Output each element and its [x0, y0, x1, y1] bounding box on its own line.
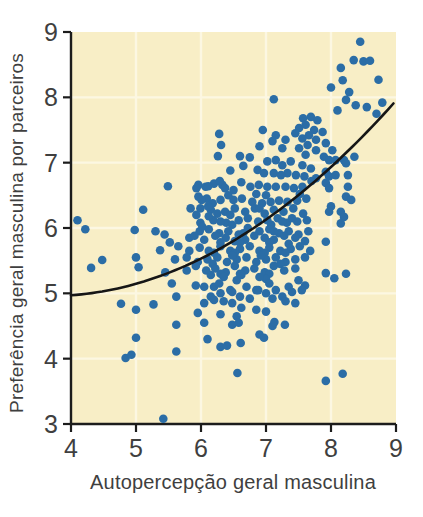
scatter-point — [151, 227, 160, 236]
y-tick-label: 9 — [44, 18, 58, 46]
scatter-point — [277, 171, 286, 180]
scatter-point — [134, 263, 143, 272]
x-axis-title: Autopercepção geral masculina — [90, 471, 376, 494]
scatter-point — [347, 196, 356, 205]
scatter-point — [281, 136, 290, 145]
scatter-point — [216, 289, 225, 298]
scatter-point — [351, 101, 360, 110]
scatter-point — [236, 152, 245, 161]
y-tick-label: 3 — [44, 410, 58, 438]
scatter-point — [278, 144, 287, 153]
scatter-point — [172, 292, 181, 301]
scatter-point — [204, 182, 213, 191]
scatter-point — [215, 279, 224, 288]
scatter-point — [132, 305, 141, 314]
scatter-point — [139, 205, 148, 214]
scatter-point — [304, 227, 313, 236]
x-tick-label: 4 — [64, 434, 78, 462]
scatter-point — [342, 269, 351, 278]
scatter-point — [186, 204, 195, 213]
scatter-point — [236, 292, 245, 301]
scatter-point — [207, 271, 216, 280]
scatter-point — [338, 76, 347, 85]
scatter-point — [300, 172, 309, 181]
scatter-point — [216, 196, 225, 205]
scatter-point — [246, 242, 255, 251]
scatter-point — [132, 253, 141, 262]
scatter-point — [216, 310, 225, 319]
scatter-point — [291, 234, 300, 243]
scatter-point — [345, 88, 354, 97]
scatter-point — [87, 264, 96, 273]
scatter-point — [270, 169, 279, 178]
scatter-point — [237, 303, 246, 312]
scatter-point — [149, 300, 158, 309]
scatter-figure: Preferência geral masculina por parceiro… — [0, 0, 423, 517]
scatter-point — [210, 296, 219, 305]
scatter-point — [338, 369, 347, 378]
scatter-point — [262, 307, 271, 316]
scatter-point — [166, 238, 175, 247]
scatter-point — [226, 166, 235, 175]
scatter-point — [303, 216, 312, 225]
scatter-point — [200, 283, 209, 292]
scatter-point — [224, 191, 233, 200]
scatter-point — [228, 251, 237, 260]
scatter-point — [257, 251, 266, 260]
y-tick-label: 6 — [44, 214, 58, 242]
scatter-point — [192, 184, 201, 193]
scatter-point — [303, 141, 312, 150]
scatter-point — [298, 161, 307, 170]
scatter-point — [307, 164, 316, 173]
scatter-point — [205, 212, 214, 221]
scatter-point — [216, 217, 225, 226]
scatter-point — [296, 242, 305, 251]
scatter-point — [286, 157, 295, 166]
scatter-point — [337, 64, 346, 73]
scatter-point — [366, 56, 375, 65]
scatter-point — [363, 103, 372, 112]
scatter-point — [228, 299, 237, 308]
scatter-point — [333, 106, 342, 115]
scatter-point — [255, 204, 264, 213]
scatter-point — [231, 262, 240, 271]
scatter-point — [242, 283, 251, 292]
scatter-point — [270, 227, 279, 236]
y-tick-label: 8 — [44, 83, 58, 111]
scatter-point — [156, 246, 165, 255]
scatter-point — [291, 299, 300, 308]
scatter-point — [236, 339, 245, 348]
y-tick-label: 5 — [44, 279, 58, 307]
scatter-point — [328, 146, 337, 155]
scatter-point — [322, 139, 331, 148]
scatter-point — [342, 159, 351, 168]
scatter-point — [244, 214, 253, 223]
scatter-point — [342, 96, 351, 105]
scatter-point — [344, 171, 353, 180]
scatter-point — [242, 253, 251, 262]
scatter-point — [260, 169, 269, 178]
x-tick-label: 6 — [194, 434, 208, 462]
scatter-point — [237, 178, 246, 187]
scatter-point — [214, 152, 223, 161]
scatter-point — [288, 214, 297, 223]
scatter-point — [281, 249, 290, 258]
y-tick-label: 4 — [44, 345, 58, 373]
x-tick-label: 7 — [259, 434, 273, 462]
scatter-point — [246, 183, 255, 192]
scatter-point — [349, 56, 358, 65]
scatter-point — [288, 288, 297, 297]
scatter-point — [132, 334, 141, 343]
scatter-point — [226, 211, 235, 220]
scatter-point — [313, 116, 322, 125]
scatter-point — [350, 153, 359, 162]
scatter-point — [228, 288, 237, 297]
scatter-point — [217, 141, 226, 150]
scatter-point — [270, 318, 279, 327]
scatter-point — [337, 219, 346, 228]
scatter-point — [270, 262, 279, 271]
scatter-point — [73, 216, 82, 225]
scatter-point — [197, 196, 206, 205]
scatter-point — [192, 281, 201, 290]
scatter-point — [289, 204, 298, 213]
